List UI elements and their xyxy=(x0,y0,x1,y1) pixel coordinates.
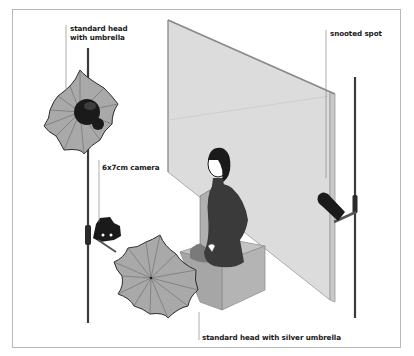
label-line-2: with umbrella xyxy=(70,33,128,42)
umbrella-light-bottom xyxy=(114,235,198,318)
label-camera: 6x7cm camera xyxy=(102,163,160,172)
label-line-1: standard head xyxy=(70,24,128,33)
label-snooted-spot: snooted spot xyxy=(330,29,382,38)
lighting-diagram xyxy=(0,0,414,356)
label-silver-umbrella: standard head with silver umbrella xyxy=(202,333,341,342)
umbrella-light-top xyxy=(44,48,118,178)
camera xyxy=(85,178,121,323)
label-standard-head-umbrella: standard head with umbrella xyxy=(70,24,128,42)
